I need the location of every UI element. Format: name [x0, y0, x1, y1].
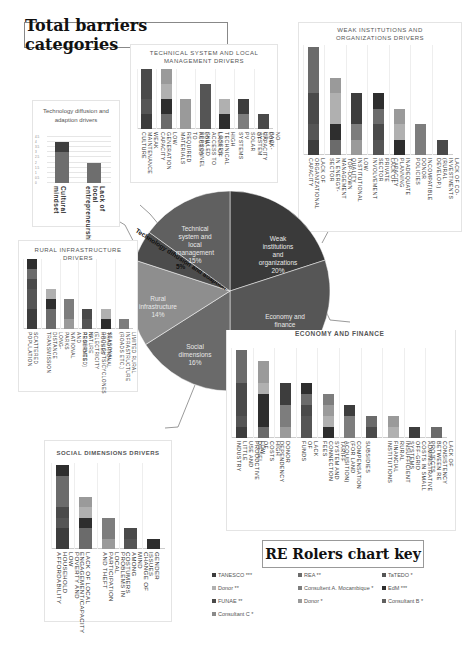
bar: [27, 259, 37, 329]
bar-segment: [27, 309, 37, 329]
legend: TANESCO ***REA **TaTEDO *Donor **Consult…: [212, 572, 462, 642]
bar: [180, 99, 191, 129]
bar-segment: [330, 93, 341, 124]
bar-segment: [308, 140, 319, 156]
panel-title: TECHNICAL SYSTEM AND LOCAL MANAGEMENT DR…: [131, 49, 277, 65]
bar-label: LIMITED RURAL INFRASTRUCTURE (ROADS ETC.…: [118, 332, 136, 382]
legend-swatch: [212, 612, 216, 616]
bar-label: Lack of local entrepreneurship: [85, 186, 106, 220]
legend-swatch: [212, 599, 216, 603]
legend-label: Consultent A. Mocambique *: [304, 585, 373, 591]
legend-item: TaTEDO *: [382, 572, 413, 578]
bar-segment: [236, 383, 247, 416]
legend-item: TANESCO ***: [212, 572, 252, 578]
gridline: [47, 136, 111, 137]
bar: [236, 350, 247, 438]
legend-label: Consultant B *: [388, 598, 423, 604]
bar-segment: [236, 350, 247, 383]
legend-label: TaTEDO *: [388, 572, 413, 578]
panel-social: SOCIAL DIMENSIONS DRIVERS POVERTY AND LO…: [44, 440, 172, 622]
legend-swatch: [298, 599, 302, 603]
bar-segment: [161, 114, 172, 129]
panel-title: SOCIAL DIMENSIONS DRIVERS: [45, 449, 171, 457]
bar-label: WEAK MAINTENANCE CULTURE: [141, 132, 159, 174]
pie-pct: 5%: [176, 263, 186, 270]
grid-column: [142, 463, 166, 549]
bar-segment: [79, 528, 92, 549]
bar-segment: [373, 93, 384, 109]
bar-segment: [323, 394, 334, 405]
y-tick: 1.5: [35, 166, 39, 170]
legend-swatch: [382, 573, 386, 577]
bar-segment: [46, 289, 56, 299]
bar: [280, 383, 291, 438]
legend-item: Donor **: [212, 585, 239, 591]
legend-swatch: [382, 599, 386, 603]
bar: [119, 319, 129, 329]
bar-segment: [27, 279, 37, 289]
bar: [394, 109, 405, 156]
bar-segment: [161, 99, 172, 114]
legend-label: EdM ***: [388, 585, 407, 591]
bar-segment: [409, 427, 420, 438]
y-tick: 2: [35, 161, 37, 165]
bar: [79, 497, 92, 550]
bar-label: LONG-DISTANCE TRANSMISSION: [45, 332, 63, 373]
legend-label: TANESCO ***: [218, 572, 252, 578]
bar-segment: [64, 299, 74, 319]
bar-segment: [102, 539, 115, 550]
bar: [46, 289, 56, 329]
legend-item: Donor *: [298, 598, 323, 604]
bar-segment: [27, 269, 37, 279]
legend-swatch: [298, 573, 302, 577]
bar-label: Cultural mindset: [53, 186, 67, 214]
bar: [308, 47, 319, 156]
bar-label: LACK OF LOCAL ENGAGEMENT/CAPACITY: [79, 552, 91, 622]
bar-label: HIGH TECHNICAL LOSSES: [218, 132, 236, 165]
plot-economy: LOW PRODUCTIVE USE AND LITTLE INDUSTRYHI…: [231, 348, 447, 438]
legend-swatch: [382, 586, 386, 590]
bar-segment: [366, 416, 377, 427]
bar-label: LACK OF CO-INVESTMENTS (RURAL DEVELOP.): [436, 158, 460, 199]
bar: [351, 93, 362, 155]
y-tick: 4: [35, 140, 37, 144]
bar-segment: [301, 394, 312, 405]
bar-segment: [388, 427, 399, 438]
bar-label: LOW INSTITUTIONAL QUALITY: [351, 158, 369, 202]
bar-segment: [141, 114, 152, 129]
bar-segment: [236, 416, 247, 427]
bar-label: SUBSIDIES: [365, 441, 371, 473]
plot-technical: WEAK MAINTENANCE CULTURELOW GENERATION C…: [137, 69, 273, 129]
bar-segment: [46, 309, 56, 329]
bar-label: POVERTY AND LOW HOUSEHOLD AFFORDABILITY: [56, 552, 80, 604]
bar-segment: [236, 427, 247, 438]
bar-segment: [147, 539, 160, 550]
legend-item: EdM ***: [382, 585, 407, 591]
plot-rural: SCATTERED POPULATIONLONG-DISTANCE TRANSM…: [23, 259, 133, 329]
bar: [258, 114, 269, 129]
bar-segment: [415, 124, 426, 155]
bar-segment: [87, 163, 101, 183]
y-tick: 4.5: [35, 135, 39, 139]
bar: [330, 78, 341, 156]
legend-swatch: [212, 586, 216, 590]
legend-label: FUNAE **: [218, 598, 242, 604]
legend-item: FUNAE **: [212, 598, 242, 604]
legend-item: Consultant B *: [382, 598, 423, 604]
bar-segment: [161, 69, 172, 84]
bar: [200, 84, 211, 129]
bar-segment: [373, 109, 384, 125]
bar: [147, 539, 160, 550]
bar-segment: [219, 99, 230, 114]
bar-label: SEASONAL DROUGHTS/CYCLONES: [100, 332, 112, 394]
bar-label: LACK OF PRIVATE SECTOR INVOLVEMENT: [372, 158, 396, 199]
bar: [55, 142, 69, 183]
bar-segment: [56, 528, 69, 549]
bar-label: INSUFFICIENT RURAL FINANCIAL INSTITUTION…: [387, 441, 411, 483]
bar: [56, 465, 69, 549]
bar-label: DONOR DEPENDENCY: [279, 441, 291, 482]
bar-segment: [373, 140, 384, 156]
bar-segment: [27, 259, 37, 269]
bar-segment: [82, 319, 92, 329]
legend-swatch: [212, 573, 216, 577]
